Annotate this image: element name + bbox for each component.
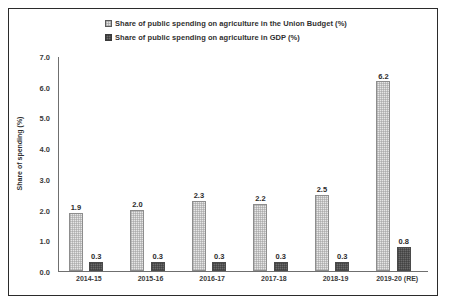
y-axis-tick-label: 1.0 xyxy=(40,237,50,246)
x-axis-tick-label: 2016-17 xyxy=(181,275,243,282)
bar-gdp[interactable]: 0.8 xyxy=(397,247,411,271)
bar-union-budget[interactable]: 2.0 xyxy=(130,210,144,271)
bar-group: 2.20.3 xyxy=(244,57,306,271)
x-axis-tick-label: 2019-20 (RE) xyxy=(366,275,428,282)
bar-value-label: 0.3 xyxy=(91,252,101,261)
x-axis-tick-label: 2015-16 xyxy=(120,275,182,282)
bar-group: 2.30.3 xyxy=(182,57,244,271)
bar-gdp[interactable]: 0.3 xyxy=(151,262,165,271)
legend-item-union-budget[interactable]: Share of public spending on agriculture … xyxy=(105,17,405,30)
bar-value-label: 2.5 xyxy=(317,185,327,194)
x-axis-tick-labels: 2014-152015-162016-172017-182018-192019-… xyxy=(58,275,428,282)
y-axis-tick-label: 2.0 xyxy=(40,206,50,215)
bar-union-budget[interactable]: 1.9 xyxy=(69,213,83,271)
legend-label-union-budget: Share of public spending on agriculture … xyxy=(115,19,347,28)
bar-groups: 1.90.32.00.32.30.32.20.32.50.36.20.8 xyxy=(59,57,428,271)
bar-union-budget[interactable]: 2.2 xyxy=(253,204,267,271)
chart-legend: Share of public spending on agriculture … xyxy=(105,17,405,45)
legend-item-gdp[interactable]: Share of public spending on agriculture … xyxy=(105,31,405,44)
bar-union-budget[interactable]: 6.2 xyxy=(376,81,390,271)
bar-group: 1.90.3 xyxy=(59,57,121,271)
legend-label-gdp: Share of public spending on agriculture … xyxy=(115,33,300,42)
bar-value-label: 2.3 xyxy=(194,191,204,200)
bar-value-label: 0.8 xyxy=(398,237,408,246)
bar-group: 6.20.8 xyxy=(367,57,429,271)
bar-value-label: 0.3 xyxy=(337,252,347,261)
plot-area: 1.90.32.00.32.30.32.20.32.50.36.20.8 xyxy=(58,57,428,272)
bar-value-label: 6.2 xyxy=(378,72,388,81)
bar-value-label: 2.0 xyxy=(132,200,142,209)
bar-value-label: 2.2 xyxy=(255,194,265,203)
y-axis-tick-label: 5.0 xyxy=(40,114,50,123)
bar-gdp[interactable]: 0.3 xyxy=(212,262,226,271)
y-axis-tick-label: 3.0 xyxy=(40,175,50,184)
bar-value-label: 0.3 xyxy=(152,252,162,261)
y-axis-tick-label: 4.0 xyxy=(40,145,50,154)
y-axis-tick-label: 0.0 xyxy=(40,268,50,277)
bar-gdp[interactable]: 0.3 xyxy=(335,262,349,271)
chart-figure: Share of public spending on agriculture … xyxy=(8,8,438,296)
bar-value-label: 0.3 xyxy=(275,252,285,261)
bar-union-budget[interactable]: 2.3 xyxy=(192,201,206,271)
bar-group: 2.50.3 xyxy=(305,57,367,271)
y-axis-tick-labels: 7.06.05.04.03.02.01.00.0 xyxy=(9,57,55,272)
y-axis-tick-label: 6.0 xyxy=(40,83,50,92)
bar-value-label: 0.3 xyxy=(214,252,224,261)
bar-group: 2.00.3 xyxy=(121,57,183,271)
y-axis-tick-label: 7.0 xyxy=(40,53,50,62)
bar-gdp[interactable]: 0.3 xyxy=(89,262,103,271)
x-axis-tick-label: 2018-19 xyxy=(305,275,367,282)
bar-value-label: 1.9 xyxy=(71,203,81,212)
legend-swatch-icon-gdp xyxy=(105,34,112,41)
x-axis-tick-label: 2017-18 xyxy=(243,275,305,282)
legend-swatch-icon-union-budget xyxy=(105,20,112,27)
x-axis-tick-label: 2014-15 xyxy=(58,275,120,282)
bar-gdp[interactable]: 0.3 xyxy=(274,262,288,271)
bar-union-budget[interactable]: 2.5 xyxy=(315,195,329,271)
